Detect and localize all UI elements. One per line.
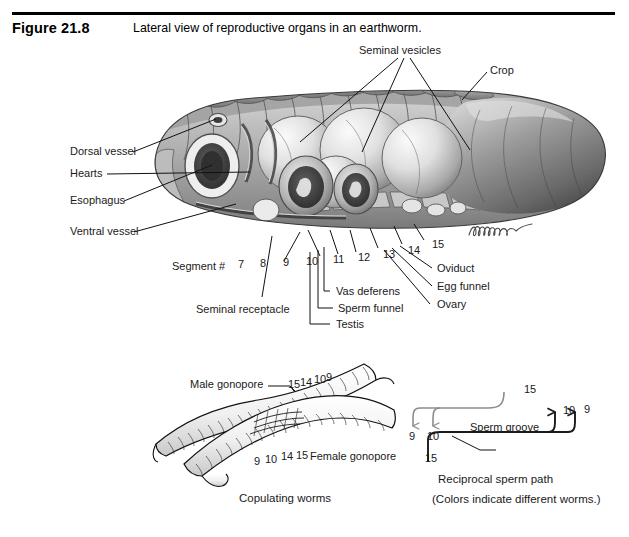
figure-header-rule [12, 12, 615, 15]
sperm-path-gray-source-15: 15 [524, 383, 536, 395]
sperm-path-gray-target-10: 10 [427, 430, 439, 442]
copulating-worms-illustration [150, 358, 400, 493]
artist-signature [466, 219, 536, 241]
segment-number-label: Segment # [172, 260, 225, 272]
segment-number-9: 9 [283, 256, 289, 268]
lower-worm-number-9: 9 [254, 455, 260, 467]
sperm-path-black-source-15: 15 [425, 452, 437, 464]
label-male-gonopore: Male gonopore [190, 378, 263, 390]
segment-number-8: 8 [260, 257, 266, 269]
segment-number-13: 13 [383, 248, 395, 260]
label-oviduct: Oviduct [437, 262, 474, 274]
label-sperm-groove: Sperm groove [470, 421, 539, 433]
label-dorsal-vessel: Dorsal vessel [70, 145, 136, 157]
label-testis: Testis [336, 318, 364, 330]
figure-caption: Lateral view of reproductive organs in a… [133, 21, 422, 35]
upper-worm-number-9: 9 [326, 371, 332, 383]
segment-number-7: 7 [238, 258, 244, 270]
caption-copulating-worms: Copulating worms [239, 492, 331, 504]
label-ventral-vessel: Ventral vessel [70, 225, 138, 237]
label-crop: Crop [490, 64, 514, 76]
label-hearts: Hearts [70, 167, 102, 179]
segment-number-10: 10 [306, 255, 318, 267]
label-seminal-receptacle: Seminal receptacle [196, 303, 290, 315]
segment-number-14: 14 [408, 244, 420, 256]
label-egg-funnel: Egg funnel [437, 280, 490, 292]
upper-worm-number-10: 10 [314, 373, 326, 385]
sperm-path-black-target-10: 10 [563, 404, 575, 416]
label-sperm-funnel: Sperm funnel [338, 302, 403, 314]
lower-worm-number-15: 15 [296, 449, 308, 461]
segment-number-15: 15 [432, 238, 444, 250]
main-illustration [150, 58, 620, 258]
upper-worm-number-15: 15 [288, 378, 300, 390]
label-seminal-vesicles: Seminal vesicles [359, 44, 441, 56]
label-esophagus: Esophagus [70, 194, 125, 206]
figure-number: Figure 21.8 [12, 20, 90, 36]
sperm-path-black-target-9: 9 [584, 403, 590, 415]
note-colors-indicate-worms: (Colors indicate different worms.) [432, 493, 601, 505]
label-female-gonopore: Female gonopore [310, 450, 396, 462]
upper-worm-number-14: 14 [300, 376, 312, 388]
segment-number-12: 12 [358, 251, 370, 263]
lower-worm-number-10: 10 [265, 453, 277, 465]
sperm-path-gray-target-9: 9 [409, 430, 415, 442]
lower-worm-number-14: 14 [281, 450, 293, 462]
label-ovary: Ovary [437, 298, 466, 310]
caption-reciprocal-sperm-path: Reciprocal sperm path [438, 473, 553, 485]
label-vas-deferens: Vas deferens [336, 285, 400, 297]
segment-number-11: 11 [333, 253, 344, 265]
